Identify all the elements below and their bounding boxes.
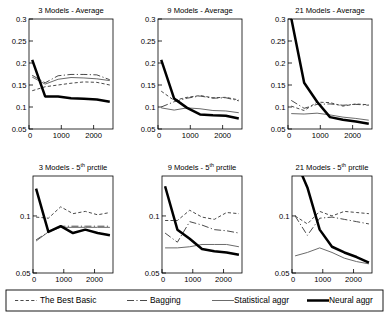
panel-title: 21 Models - Average: [295, 6, 365, 15]
x-tick-label: 2000: [85, 131, 102, 140]
x-tick-label: 1000: [55, 275, 72, 284]
y-tick-label: 0.25: [271, 37, 286, 46]
y-tick-label: 0.05: [16, 269, 31, 278]
series-line-the-best-basic: [36, 207, 110, 218]
chart-legend: The Best BasicBaggingStatistical aggrNeu…: [6, 290, 383, 311]
y-tick-label: 0.05: [12, 125, 27, 134]
y-tick-label: 0.05: [141, 125, 156, 134]
legend-label: Statistical aggr: [234, 295, 289, 305]
plot-frame: [158, 19, 242, 129]
plot-frame: [288, 19, 372, 129]
multi-panel-line-chart-figure: 3 Models - Average0.050.10.150.20.250.30…: [0, 0, 389, 317]
series-line-statistical-aggr: [165, 244, 239, 247]
panel-title: 3 Models - Average: [38, 6, 103, 15]
x-tick-label: 2000: [214, 131, 231, 140]
panel-title: 21 Models - 5th prctile: [296, 162, 369, 172]
x-tick-label: 0: [157, 131, 161, 140]
legend-item: The Best Basic: [15, 295, 96, 305]
x-tick-label: 0: [291, 275, 295, 284]
panel-title: 9 Models - Average: [167, 6, 232, 15]
legend-item: Statistical aggr: [212, 295, 289, 305]
x-tick-label: 2000: [215, 275, 232, 284]
legend-label: Neural aggr: [329, 295, 373, 305]
x-tick-label: 2000: [86, 275, 103, 284]
x-tick-label: 1000: [312, 131, 329, 140]
x-tick-label: 1000: [53, 131, 70, 140]
y-tick-label: 0.15: [141, 81, 156, 90]
y-tick-label: 0.3: [16, 15, 27, 24]
series-line-neural-aggr: [36, 189, 110, 236]
x-tick-label: 2000: [344, 131, 361, 140]
x-tick-label: 0: [161, 275, 165, 284]
y-tick-label: 0.1: [145, 103, 156, 112]
chart-panel-3: 21 Models - Average0.050.10.150.20.250.3…: [271, 6, 372, 141]
y-tick-label: 0.1: [20, 212, 31, 221]
y-tick-label: 0.1: [16, 103, 27, 112]
series-line-bagging: [291, 100, 369, 108]
x-tick-label: 2000: [345, 275, 362, 284]
plot-frame: [162, 176, 242, 273]
legend-label: The Best Basic: [40, 295, 96, 305]
y-tick-label: 0.1: [275, 103, 286, 112]
y-tick-label: 0.1: [279, 212, 290, 221]
y-tick-label: 0.05: [275, 269, 290, 278]
y-tick-label: 0.3: [275, 15, 286, 24]
legend-label: Bagging: [150, 295, 181, 305]
panel-title: 3 Models - 5th prctile: [39, 162, 108, 172]
series-line-the-best-basic: [291, 102, 369, 110]
chart-panel-2: 9 Models - Average0.050.10.150.20.250.30…: [141, 6, 242, 141]
y-tick-label: 0.1: [149, 212, 160, 221]
series-line-the-best-basic: [165, 210, 239, 220]
x-tick-label: 0: [28, 131, 32, 140]
x-tick-label: 1000: [184, 275, 201, 284]
x-tick-label: 0: [287, 131, 291, 140]
series-line-statistical-aggr: [161, 108, 239, 113]
series-line-neural-aggr: [32, 60, 110, 102]
y-tick-label: 0.2: [16, 59, 27, 68]
y-tick-label: 0.2: [145, 59, 156, 68]
chart-panel-6: 21 Models - 5th prctile0.050.1010002000: [275, 159, 372, 284]
y-tick-label: 0.15: [12, 81, 27, 90]
legend-item: Bagging: [127, 295, 181, 305]
series-line-bagging: [295, 216, 369, 235]
x-tick-label: 1000: [182, 131, 199, 140]
y-tick-label: 0.2: [275, 59, 286, 68]
y-tick-label: 0.05: [145, 269, 160, 278]
series-line-statistical-aggr: [295, 248, 369, 264]
y-tick-label: 0.05: [271, 125, 286, 134]
y-tick-label: 0.25: [141, 37, 156, 46]
y-tick-label: 0.25: [12, 37, 27, 46]
chart-panel-1: 3 Models - Average0.050.10.150.20.250.30…: [12, 6, 113, 141]
y-tick-label: 0.15: [271, 81, 286, 90]
x-tick-label: 0: [32, 275, 36, 284]
legend-item: Neural aggr: [307, 295, 373, 305]
chart-panel-4: 3 Models - 5th prctile0.050.1010002000: [16, 162, 113, 284]
chart-panel-5: 9 Models - 5th prctile0.050.1010002000: [145, 162, 242, 284]
panel-title: 9 Models - 5th prctile: [168, 162, 237, 172]
series-line-neural-aggr: [295, 159, 369, 263]
x-tick-label: 1000: [314, 275, 331, 284]
y-tick-label: 0.3: [145, 15, 156, 24]
